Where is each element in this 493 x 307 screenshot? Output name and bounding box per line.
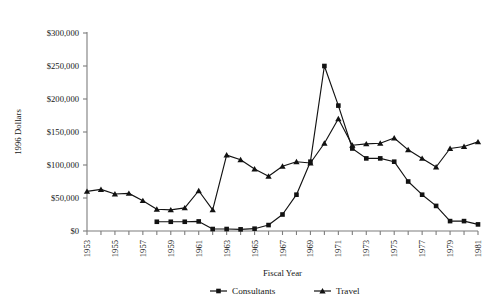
legend-item-consultants[interactable]: Consultants [210, 286, 276, 296]
data-point-marker [155, 219, 160, 224]
data-point-marker [391, 135, 397, 140]
data-series-group [84, 64, 481, 232]
data-point-marker [420, 192, 425, 197]
data-point-marker [364, 156, 369, 161]
y-tick-label: $0 [70, 226, 79, 236]
x-tick-label: 1959 [166, 240, 176, 257]
data-point-marker [392, 159, 397, 164]
data-point-marker [252, 226, 257, 231]
legend-marker [216, 289, 221, 294]
data-point-marker [476, 222, 481, 227]
x-tick-label: 1969 [305, 240, 315, 257]
data-point-marker [182, 219, 187, 224]
x-axis-title: Fiscal Year [263, 268, 302, 278]
legend-label: Travel [336, 286, 360, 296]
x-tick-label: 1961 [194, 240, 204, 257]
data-point-marker [224, 227, 229, 232]
y-tick-label: $100,000 [47, 160, 79, 170]
x-tick-label: 1955 [110, 240, 120, 257]
data-point-marker [462, 219, 467, 224]
y-axis-title: 1996 Dollars [13, 109, 23, 155]
series-line [157, 66, 478, 229]
x-tick-label: 1979 [445, 240, 455, 257]
data-point-marker [251, 166, 257, 171]
x-tick-label: 1977 [417, 239, 427, 257]
x-tick-label: 1963 [222, 240, 232, 257]
x-tick-label: 1975 [389, 240, 399, 257]
x-tick-label: 1965 [250, 240, 260, 257]
chart-container: $0$50,000$100,000$150,000$200,000$250,00… [0, 0, 493, 307]
data-point-marker [419, 155, 425, 160]
data-point-marker [336, 103, 341, 108]
y-tick-label: $150,000 [47, 127, 79, 137]
data-point-marker [434, 204, 439, 209]
data-point-marker [321, 140, 327, 145]
y-tick-label: $300,000 [47, 28, 79, 38]
series-travel [84, 116, 481, 213]
data-point-marker [322, 64, 327, 69]
data-point-marker [98, 186, 104, 191]
data-point-marker [196, 188, 202, 193]
data-point-marker [210, 227, 215, 232]
data-point-marker [223, 152, 229, 157]
series-consultants [155, 64, 481, 232]
y-tick-label: $200,000 [47, 94, 79, 104]
y-tick-label: $250,000 [47, 61, 79, 71]
chart-legend: ConsultantsTravel [210, 286, 360, 296]
data-point-marker [168, 219, 173, 224]
data-point-marker [475, 139, 481, 144]
legend-item-travel[interactable]: Travel [314, 286, 360, 296]
x-tick-label: 1973 [361, 240, 371, 257]
x-tick-label: 1967 [278, 239, 288, 257]
y-tick-label: $50,000 [51, 193, 79, 203]
data-point-marker [294, 192, 299, 197]
data-point-marker [238, 227, 243, 232]
data-point-marker [335, 116, 341, 121]
line-chart: $0$50,000$100,000$150,000$200,000$250,00… [0, 0, 493, 307]
x-tick-label: 1981 [473, 240, 483, 257]
x-axis: 1953195519571959196119631965196719691971… [82, 231, 483, 257]
data-point-marker [448, 219, 453, 224]
data-point-marker [266, 223, 271, 228]
x-tick-label: 1957 [138, 239, 148, 257]
data-point-marker [378, 156, 383, 161]
data-point-marker [406, 179, 411, 184]
data-point-marker [140, 198, 146, 203]
legend-label: Consultants [232, 286, 276, 296]
data-point-marker [196, 219, 201, 224]
y-axis: $0$50,000$100,000$150,000$200,000$250,00… [47, 28, 87, 236]
x-tick-label: 1953 [82, 240, 92, 257]
x-tick-label: 1971 [333, 240, 343, 257]
data-point-marker [280, 212, 285, 217]
